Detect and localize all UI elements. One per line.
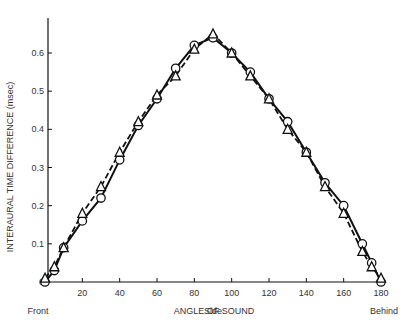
annotation-behind: Behind	[370, 306, 398, 316]
annotation-front: Front	[27, 306, 49, 316]
x-tick-label: 180	[373, 288, 388, 298]
data-point-triangle	[115, 147, 124, 156]
x-tick-label: 20	[77, 288, 87, 298]
y-tick-label: 0.3	[31, 163, 44, 173]
x-tick-label: 160	[336, 288, 351, 298]
series-layer	[41, 29, 386, 286]
y-tick-label: 0.6	[31, 48, 44, 58]
x-tick-label: 60	[152, 288, 162, 298]
y-tick-label: 0.4	[31, 124, 44, 134]
data-point-circle	[97, 194, 105, 202]
data-point-triangle	[78, 208, 87, 217]
data-point-circle	[115, 156, 123, 164]
data-point-circle	[78, 217, 86, 225]
x-tick-label: 40	[115, 288, 125, 298]
y-tick-label: 0.5	[31, 86, 44, 96]
y-tick-label: 0.1	[31, 239, 44, 249]
x-tick-label: 120	[261, 288, 276, 298]
x-tick-label: 80	[189, 288, 199, 298]
chart: 00.10.20.30.40.50.6204060801001201401601…	[0, 0, 408, 331]
x-tick-label: 140	[299, 288, 314, 298]
data-point-triangle	[209, 29, 218, 38]
x-tick-label: 100	[224, 288, 239, 298]
y-tick-label: 0.2	[31, 201, 44, 211]
y-axis-label: INTERAURAL TIME DIFFERENCE (msec)	[5, 82, 15, 253]
axes: 00.10.20.30.40.50.6204060801001201401601…	[27, 18, 398, 316]
series-line-circle	[45, 38, 381, 282]
series-line-triangle	[45, 34, 381, 278]
data-point-triangle	[97, 182, 106, 191]
x-axis-label: ANGLE OF SOUND	[174, 306, 255, 316]
